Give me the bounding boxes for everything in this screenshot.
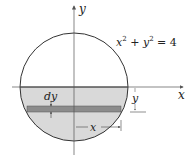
circle-area-diagram: y x x2 + y2 = 4 dy y x	[0, 0, 195, 160]
x-axis-label: x	[178, 88, 185, 102]
strip-x-label: x	[90, 121, 97, 134]
circle-equation: x2 + y2 = 4	[116, 35, 177, 49]
y-axis-label: y	[78, 2, 86, 16]
strip-y-label: y	[131, 92, 139, 105]
